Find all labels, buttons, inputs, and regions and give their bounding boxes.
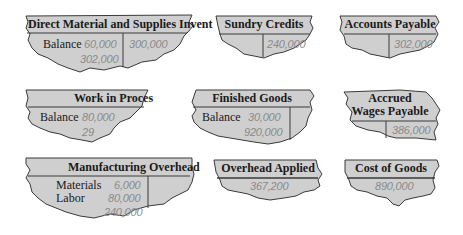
account-title: Direct Material and Supplies Invent (28, 18, 192, 31)
t-account-overhead-applied: Overhead Applied 367,200 (212, 158, 324, 204)
t-account-sundry-credits: Sundry Credits 240,000 (214, 14, 314, 60)
account-value: 890,000 (375, 180, 413, 193)
account-title: Sundry Credits (218, 18, 310, 31)
account-title: Cost of Goods (347, 162, 435, 175)
t-account-work-in-process: Work in Proces Balance 80,000 29 (24, 88, 150, 148)
debit-value: 60,000 (84, 38, 116, 51)
t-account-finished-goods: Finished Goods Balance 30,000 920,000 (188, 88, 316, 148)
account-value: 367,200 (250, 180, 288, 193)
credit-value: 302,000 (394, 38, 432, 51)
debit-value: 80,000 (108, 192, 140, 205)
credit-value: 386,000 (392, 124, 430, 137)
balance-label: Balance (43, 38, 82, 51)
t-account-manufacturing-overhead: Manufacturing Overhead Materials Labor 6… (24, 156, 196, 222)
t-account-direct-material: Direct Material and Supplies Invent Bala… (24, 14, 194, 74)
account-title: Work in Proces (74, 92, 148, 105)
account-title: Wages Payable (348, 105, 432, 118)
t-account-cost-of-goods: Cost of Goods 890,000 (343, 158, 443, 208)
debit-value: 240,000 (104, 206, 142, 219)
account-title: Finished Goods (196, 92, 308, 105)
balance-label: Balance (202, 111, 241, 124)
credit-value: 240,000 (267, 38, 305, 51)
account-title: Overhead Applied (216, 162, 320, 175)
account-title: Manufacturing Overhead (68, 161, 192, 174)
account-title: Accounts Payable (342, 18, 438, 31)
t-account-accrued-wages-payable: Accrued Wages Payable 386,000 (340, 88, 444, 148)
labor-label: Labor (56, 192, 85, 205)
t-account-accounts-payable: Accounts Payable 302,000 (338, 14, 442, 60)
debit-value: 920,000 (244, 126, 282, 139)
credit-value: 300,000 (129, 38, 167, 51)
debit-value: 302,000 (80, 53, 118, 66)
debit-value: 29 (82, 126, 94, 139)
balance-label: Balance (40, 111, 79, 124)
debit-value: 6,000 (114, 179, 141, 192)
debit-value: 30,000 (248, 111, 280, 124)
debit-value: 80,000 (82, 111, 114, 124)
